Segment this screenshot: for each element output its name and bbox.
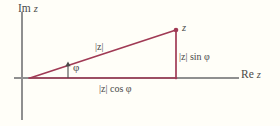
imaginary-axis-label-prefix: Im	[18, 2, 31, 14]
imaginary-axis-label: Im z	[18, 3, 38, 15]
real-part-label: |z| cos φ	[99, 84, 132, 94]
point-z-dot	[174, 28, 179, 33]
figure-canvas	[0, 0, 280, 126]
point-z-label: z	[182, 23, 186, 34]
figure-background	[0, 0, 280, 126]
imaginary-axis-label-variable: z	[34, 3, 38, 14]
real-axis-label-variable: z	[257, 69, 261, 80]
angle-phi-label: φ	[73, 62, 79, 73]
imaginary-part-label: |z| sin φ	[179, 52, 210, 62]
real-axis-label-prefix: Re	[241, 68, 254, 80]
complex-plane-figure: Im z Re z z |z| |z| sin φ |z| cos φ φ	[0, 0, 280, 126]
modulus-label: |z|	[95, 42, 103, 52]
real-axis-label: Re z	[241, 69, 261, 81]
